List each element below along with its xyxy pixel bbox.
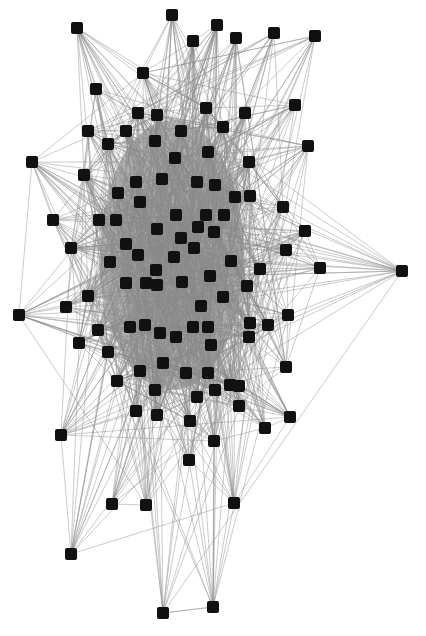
graph-node xyxy=(47,214,59,226)
graph-node xyxy=(239,107,251,119)
graph-node xyxy=(73,337,85,349)
edge xyxy=(19,162,32,315)
graph-node xyxy=(65,242,77,254)
graph-node xyxy=(209,179,221,191)
graph-node xyxy=(60,301,72,313)
graph-node xyxy=(120,125,132,137)
graph-node xyxy=(209,384,221,396)
graph-node xyxy=(309,30,321,42)
graph-node xyxy=(140,499,152,511)
edge xyxy=(77,28,138,113)
graph-node xyxy=(102,138,114,150)
graph-node xyxy=(187,321,199,333)
graph-node xyxy=(205,339,217,351)
edge xyxy=(138,33,274,113)
graph-node xyxy=(140,277,152,289)
edge xyxy=(71,385,230,554)
network-graph xyxy=(0,0,426,636)
graph-node xyxy=(151,223,163,235)
graph-node xyxy=(396,265,408,277)
graph-node xyxy=(225,255,237,267)
graph-node xyxy=(217,291,229,303)
graph-node xyxy=(204,270,216,282)
graph-node xyxy=(26,156,38,168)
graph-node xyxy=(130,405,142,417)
edge xyxy=(61,435,71,554)
edge xyxy=(61,363,163,435)
graph-node xyxy=(132,107,144,119)
edge xyxy=(71,343,79,554)
graph-node xyxy=(191,176,203,188)
graph-node xyxy=(299,225,311,237)
graph-node xyxy=(280,244,292,256)
graph-node xyxy=(259,422,271,434)
graph-node xyxy=(284,411,296,423)
graph-node xyxy=(124,321,136,333)
graph-node xyxy=(151,279,163,291)
graph-node xyxy=(183,454,195,466)
graph-node xyxy=(244,190,256,202)
graph-node xyxy=(192,221,204,233)
graph-node xyxy=(132,249,144,261)
graph-node xyxy=(65,548,77,560)
graph-node xyxy=(268,27,280,39)
graph-node xyxy=(208,226,220,238)
edge xyxy=(61,435,214,441)
graph-node xyxy=(82,125,94,137)
graph-node xyxy=(130,176,142,188)
edge xyxy=(223,36,315,127)
graph-node xyxy=(112,187,124,199)
graph-node xyxy=(243,331,255,343)
graph-node xyxy=(110,214,122,226)
edge xyxy=(189,460,234,503)
graph-node xyxy=(111,375,123,387)
graph-node xyxy=(254,263,266,275)
graph-node xyxy=(230,32,242,44)
graph-node xyxy=(134,196,146,208)
graph-node xyxy=(187,35,199,47)
graph-node xyxy=(154,327,166,339)
graph-node xyxy=(282,309,294,321)
graph-node xyxy=(302,140,314,152)
graph-node xyxy=(233,380,245,392)
graph-node xyxy=(78,169,90,181)
graph-node xyxy=(90,83,102,95)
graph-node xyxy=(139,319,151,331)
graph-node xyxy=(175,232,187,244)
graph-node xyxy=(175,125,187,137)
graph-node xyxy=(176,276,188,288)
graph-node xyxy=(184,415,196,427)
graph-node xyxy=(55,429,67,441)
graph-node xyxy=(262,319,274,331)
graph-node xyxy=(168,251,180,263)
graph-node xyxy=(170,209,182,221)
graph-node xyxy=(202,146,214,158)
graph-node xyxy=(157,607,169,619)
graph-node xyxy=(244,317,256,329)
edge xyxy=(163,607,213,613)
graph-node xyxy=(92,324,104,336)
graph-node xyxy=(169,152,181,164)
graph-node xyxy=(241,280,253,292)
graph-node xyxy=(229,191,241,203)
graph-node xyxy=(207,601,219,613)
graph-node xyxy=(218,209,230,221)
graph-node xyxy=(120,277,132,289)
graph-node xyxy=(233,400,245,412)
graph-node xyxy=(150,264,162,276)
graph-node xyxy=(102,346,114,358)
graph-node xyxy=(137,67,149,79)
graph-node xyxy=(289,99,301,111)
graph-node xyxy=(243,156,255,168)
graph-node xyxy=(134,365,146,377)
graph-node xyxy=(93,214,105,226)
graph-node xyxy=(200,209,212,221)
graph-node xyxy=(202,321,214,333)
graph-node xyxy=(314,262,326,274)
graph-node xyxy=(188,242,200,254)
graph-node xyxy=(280,361,292,373)
graph-node xyxy=(13,309,25,321)
graph-node xyxy=(228,497,240,509)
graph-node xyxy=(191,391,203,403)
graph-node xyxy=(82,290,94,302)
